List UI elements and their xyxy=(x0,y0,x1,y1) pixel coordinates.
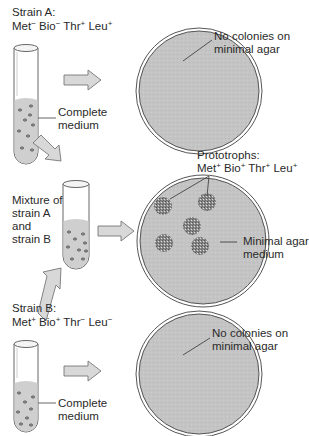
label-line: medium xyxy=(243,248,309,261)
gene-met: Met xyxy=(12,20,31,32)
label-line: and xyxy=(12,220,63,233)
gene-sign: + xyxy=(31,315,36,324)
gene-thr: Thr xyxy=(63,316,80,328)
gene-sign: − xyxy=(108,315,113,324)
label-line: No colonies on xyxy=(214,30,290,43)
gene-thr: Thr xyxy=(63,20,80,32)
mixture-tube xyxy=(63,181,89,270)
strain-b-tube-label: Complete medium xyxy=(58,397,107,423)
label-line: strain B xyxy=(12,233,63,246)
gene-bio: Bio xyxy=(224,162,241,174)
gene-sign: + xyxy=(56,315,61,324)
label-line: Minimal agar xyxy=(243,235,309,248)
strain-a-tube-label: Complete medium xyxy=(58,106,107,132)
gene-met: Met xyxy=(197,162,216,174)
label-line: minimal agar xyxy=(212,340,288,353)
prototrophs-label: Prototrophs: Met+ Bio+ Thr+ Leu+ xyxy=(197,149,297,175)
strain-b-tube xyxy=(14,341,38,433)
label-line: strain A xyxy=(12,207,63,220)
label-line: medium xyxy=(58,119,107,132)
strain-a-genotype: Met− Bio− Thr+ Leu+ xyxy=(12,20,112,33)
gene-bio: Bio xyxy=(39,20,56,32)
label-line: Prototrophs: xyxy=(197,149,297,162)
prototroph-genotype: Met+ Bio+ Thr+ Leu+ xyxy=(197,162,297,175)
label-line: Mixture of xyxy=(12,194,63,207)
strain-a-plate-label: No colonies on minimal agar xyxy=(214,30,290,56)
gene-met: Met xyxy=(12,316,31,328)
gene-sign: − xyxy=(81,315,86,324)
arrow-right-icon xyxy=(64,361,101,381)
gene-sign: + xyxy=(241,161,246,170)
strain-b-genotype: Met+ Bio+ Thr− Leu− xyxy=(12,316,112,329)
label-line: minimal agar xyxy=(214,43,290,56)
gene-sign: − xyxy=(31,19,36,28)
gene-sign: + xyxy=(216,161,221,170)
gene-thr: Thr xyxy=(248,162,265,174)
arrow-right-icon xyxy=(64,70,101,90)
label-line: Complete xyxy=(58,397,107,410)
strain-b-plate-label: No colonies on minimal agar xyxy=(212,327,288,353)
gene-sign: + xyxy=(81,19,86,28)
gene-sign: + xyxy=(266,161,271,170)
label-line: medium xyxy=(58,410,107,423)
gene-leu: Leu xyxy=(273,162,292,174)
strain-a-tube xyxy=(14,45,38,165)
arrow-right-icon xyxy=(98,221,134,241)
minimal-agar-label: Minimal agar medium xyxy=(243,235,309,261)
gene-sign: + xyxy=(293,161,298,170)
strain-b-title: Strain B: xyxy=(12,302,56,315)
mixture-label: Mixture of strain A and strain B xyxy=(12,194,63,246)
label-line: Complete xyxy=(58,106,107,119)
gene-leu: Leu xyxy=(88,316,107,328)
strain-a-title: Strain A: xyxy=(12,6,55,19)
gene-sign: + xyxy=(108,19,113,28)
gene-leu: Leu xyxy=(88,20,107,32)
label-line: No colonies on xyxy=(212,327,288,340)
gene-sign: − xyxy=(56,19,61,28)
gene-bio: Bio xyxy=(39,316,56,328)
